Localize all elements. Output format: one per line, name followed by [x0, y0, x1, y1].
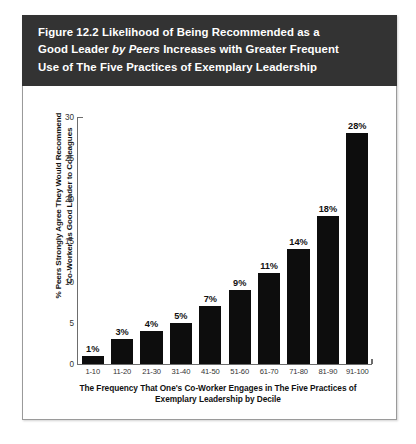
bar-value-label: 4% [137, 319, 166, 329]
bar[interactable] [258, 273, 280, 364]
x-axis-title: The Frequency That One's Co-Worker Engag… [53, 383, 383, 406]
plot-area: 051015202530 1%1-103%11-204%21-305%31-40… [77, 117, 372, 365]
x-axis-tick-label: 91-100 [337, 367, 378, 376]
bar-group: 18%81-90 [313, 117, 342, 364]
bar-value-label: 5% [166, 311, 195, 321]
y-axis-title-line-1: % Peers Strongly Agree They Would Recomm… [54, 113, 63, 299]
bar-group: 9%51-60 [225, 117, 254, 364]
bar-group: 28%91-100 [343, 117, 372, 364]
bar-group: 14%71-80 [284, 117, 313, 364]
bar-group: 3%11-20 [107, 117, 136, 364]
figure-header-band: Figure 12.2 Likelihood of Being Recommen… [22, 15, 397, 86]
y-axis-tick-label: 15 [52, 236, 74, 245]
figure-title: Figure 12.2 Likelihood of Being Recommen… [38, 24, 383, 76]
y-axis-tick-label: 25 [52, 154, 74, 163]
y-axis-tick-label: 10 [52, 277, 74, 286]
bar-value-label: 14% [284, 237, 313, 247]
figure-title-line-2-pre: Good Leader [38, 43, 112, 55]
y-axis-title: % Peers Strongly Agree They Would Recomm… [54, 86, 75, 326]
y-axis-tick-label: 5 [52, 318, 74, 327]
figure-title-line-2-post: Increases with Greater Frequent [160, 43, 339, 55]
x-axis-title-line-2: Exemplary Leadership by Decile [155, 394, 281, 404]
bar[interactable] [140, 331, 162, 364]
x-axis-title-line-1: The Frequency That One's Co-Worker Engag… [80, 383, 357, 393]
bar-group: 11%61-70 [254, 117, 283, 364]
bar-value-label: 1% [78, 344, 107, 354]
bar[interactable] [229, 290, 251, 364]
y-axis-tick-label: 30 [52, 113, 74, 122]
bar-value-label: 18% [313, 204, 342, 214]
figure-title-line-1: Figure 12.2 Likelihood of Being Recommen… [38, 26, 320, 38]
bar-chart: % Peers Strongly Agree They Would Recomm… [23, 87, 396, 419]
bar[interactable] [287, 249, 309, 364]
y-axis-tick-label: 20 [52, 195, 74, 204]
bar-group: 7%41-50 [196, 117, 225, 364]
bar-group: 1%1-10 [78, 117, 107, 364]
y-axis-title-line-2: Co-Worker as Good Leader to Colleagues [65, 128, 74, 284]
bar[interactable] [111, 339, 133, 364]
bar[interactable] [170, 323, 192, 364]
figure-title-line-2-italic: by Peers [112, 43, 160, 55]
figure-container: Figure 12.2 Likelihood of Being Recommen… [22, 15, 397, 420]
bar-value-label: 28% [343, 121, 372, 131]
bar-value-label: 3% [107, 327, 136, 337]
bar[interactable] [199, 306, 221, 364]
bar-group: 4%21-30 [137, 117, 166, 364]
bar-value-label: 11% [254, 261, 283, 271]
bar-value-label: 7% [196, 294, 225, 304]
bar[interactable] [317, 216, 339, 364]
bar[interactable] [82, 356, 104, 364]
figure-title-line-3: Use of The Five Practices of Exemplary L… [38, 61, 317, 73]
bars-layer: 1%1-103%11-204%21-305%31-407%41-509%51-6… [78, 117, 372, 364]
bar[interactable] [346, 133, 368, 364]
bar-value-label: 9% [225, 278, 254, 288]
y-axis-tick-label: 0 [52, 360, 74, 369]
bar-group: 5%31-40 [166, 117, 195, 364]
